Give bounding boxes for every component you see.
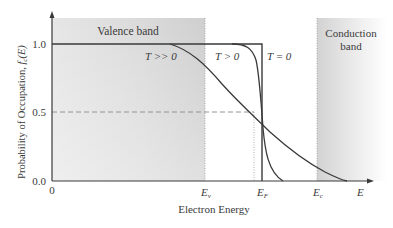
- conduction-band-label-line2: band: [340, 40, 362, 52]
- valence-band-region: [52, 18, 205, 181]
- label-t-zero: T = 0: [267, 50, 292, 62]
- ytick-0-5: 0.5: [32, 106, 46, 118]
- xtick-ef: EF: [256, 186, 269, 200]
- xtick-ev: Ev: [200, 186, 212, 200]
- y-axis-arrow-icon: [50, 11, 55, 18]
- xtick-ec: Ec: [312, 186, 324, 200]
- label-t-positive: T > 0: [215, 50, 240, 62]
- fermi-dirac-chart: 1.0 0.5 0.0 0 Ev EF Ec E Electron Energy…: [0, 0, 393, 228]
- y-axis-label: Probability of Occupation, fc(E): [16, 45, 29, 179]
- valence-band-label: Valence band: [97, 25, 159, 37]
- x-axis-label: Electron Energy: [178, 203, 250, 215]
- conduction-band-label-line1: Conduction: [325, 27, 377, 39]
- xtick-origin: 0: [49, 184, 55, 196]
- ytick-1: 1.0: [32, 38, 46, 50]
- ytick-0: 0.0: [32, 175, 46, 187]
- label-t-much-greater: T >> 0: [145, 50, 177, 62]
- xtick-e-axis: E: [356, 186, 364, 198]
- series-t-positive: [232, 44, 283, 181]
